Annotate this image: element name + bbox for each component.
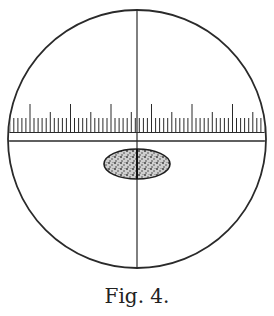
microscope-field-figure (0, 0, 274, 280)
figure-caption: Fig. 4. (0, 284, 274, 308)
